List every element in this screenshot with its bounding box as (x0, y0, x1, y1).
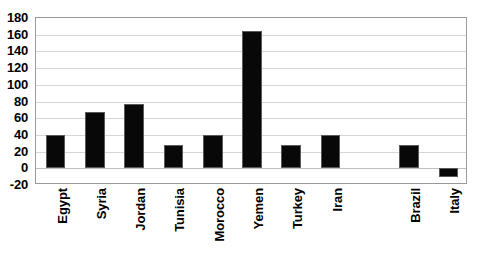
y-tick-label: 40 (14, 127, 28, 140)
x-tick-slot (349, 186, 388, 267)
bar (164, 145, 184, 168)
bar (439, 168, 459, 176)
y-tick-label: 160 (7, 27, 28, 40)
bar (399, 145, 419, 168)
x-tick-label: Syria (94, 188, 109, 219)
y-tick-label: 60 (14, 111, 28, 124)
x-tick-label: Brazil (408, 188, 423, 223)
x-tick-slot: Yemen (231, 186, 270, 267)
x-tick-label: Iran (330, 188, 345, 211)
y-tick-label: -20 (10, 178, 28, 191)
x-tick-slot: Brazil (388, 186, 427, 267)
x-tick-slot: Morocco (192, 186, 231, 267)
x-tick-label: Egypt (55, 188, 70, 224)
bar (242, 31, 262, 169)
y-tick-label: 120 (7, 61, 28, 74)
x-tick-slot: Turkey (271, 186, 310, 267)
x-tick-label: Tunisia (172, 188, 187, 232)
x-tick-slot: Iran (310, 186, 349, 267)
y-tick-label: 80 (14, 94, 28, 107)
x-tick-label: Jordan (133, 188, 148, 231)
y-axis: 180160140120100806040200-20 (0, 0, 32, 267)
bar (281, 145, 301, 168)
x-tick-label: Italy (447, 188, 462, 214)
x-tick-slot: Tunisia (153, 186, 192, 267)
y-tick-label: 20 (14, 144, 28, 157)
x-tick-label: Turkey (290, 188, 305, 229)
x-tick-label: Morocco (212, 188, 227, 241)
bar (124, 104, 144, 168)
x-tick-slot: Italy (428, 186, 467, 267)
y-tick-label: 180 (7, 11, 28, 24)
bar (321, 135, 341, 168)
bar (203, 135, 223, 168)
y-tick-label: 100 (7, 77, 28, 90)
x-tick-label: Yemen (251, 188, 266, 229)
bar-chart: 180160140120100806040200-20 EgyptSyriaJo… (0, 0, 489, 267)
x-tick-slot: Jordan (114, 186, 153, 267)
bars-layer (36, 18, 466, 183)
y-tick-label: 140 (7, 44, 28, 57)
x-axis: EgyptSyriaJordanTunisiaMoroccoYemenTurke… (35, 186, 467, 267)
bar (46, 135, 66, 168)
x-tick-slot: Egypt (35, 186, 74, 267)
x-tick-slot: Syria (74, 186, 113, 267)
bar (85, 112, 105, 169)
plot-area (35, 17, 467, 184)
y-tick-label: 0 (21, 161, 28, 174)
